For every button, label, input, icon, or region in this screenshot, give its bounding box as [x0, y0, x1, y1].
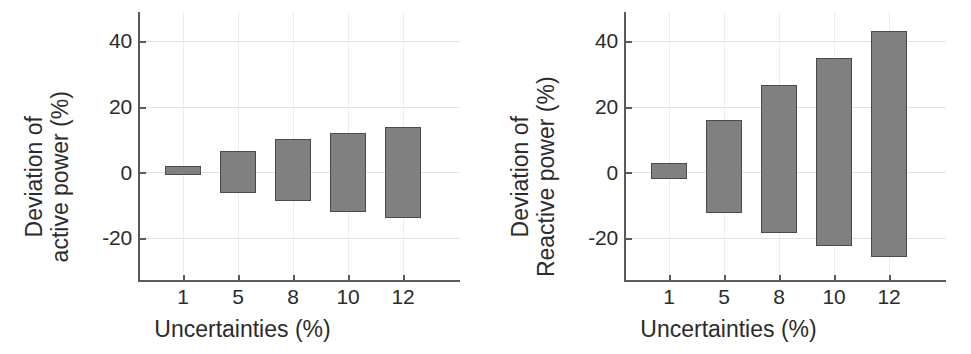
y-tick-label-40: 40 [86, 29, 132, 53]
x-tick-8 [779, 275, 781, 281]
y-tick-label-0: 0 [86, 161, 132, 185]
x-axis-line [624, 280, 946, 282]
y-axis-line [138, 12, 140, 282]
x-tick-10 [348, 275, 350, 281]
gridline-y-20 [140, 107, 460, 108]
y-tick-20 [626, 107, 632, 109]
y-axis-label-line2: Reactive power (%) [534, 67, 560, 287]
y-tick-label-0: 0 [572, 161, 618, 185]
x-tick-1 [183, 275, 185, 281]
y-axis-label-line1: Deviation of [22, 67, 48, 287]
bar-active-12 [385, 127, 421, 218]
x-tick-label-8: 8 [759, 285, 799, 309]
y-tick-label-40: 40 [572, 29, 618, 53]
y-tick-m20 [140, 238, 146, 240]
gridline-x-5 [238, 12, 239, 282]
y-tick-20 [140, 107, 146, 109]
bar-active-5 [220, 151, 256, 193]
x-axis-line [138, 280, 460, 282]
x-tick-12 [889, 275, 891, 281]
y-tick-40 [140, 41, 146, 43]
x-tick-label-12: 12 [869, 285, 909, 309]
y-tick-label-20: 20 [572, 95, 618, 119]
gridline-x-1 [183, 12, 184, 282]
gridline-y-40 [140, 41, 460, 42]
x-tick-12 [403, 275, 405, 281]
y-tick-label-20: 20 [86, 95, 132, 119]
x-tick-label-5: 5 [218, 285, 258, 309]
chart-panel-active-power: Deviation of active power (%) 40 20 0 -2… [0, 0, 485, 354]
x-tick-label-10: 10 [814, 285, 854, 309]
x-tick-label-12: 12 [383, 285, 423, 309]
y-axis-label-line2: active power (%) [48, 67, 74, 287]
bar-active-10 [330, 133, 366, 212]
x-tick-label-1: 1 [163, 285, 203, 309]
bar-reactive-10 [816, 58, 852, 246]
y-tick-40 [626, 41, 632, 43]
y-tick-0 [140, 172, 146, 174]
bar-reactive-12 [871, 31, 907, 257]
y-axis-label-reactive-power: Deviation of Reactive power (%) [508, 67, 560, 287]
x-tick-label-8: 8 [273, 285, 313, 309]
bar-reactive-1 [651, 163, 687, 179]
y-tick-m20 [626, 238, 632, 240]
x-tick-8 [293, 275, 295, 281]
bar-reactive-8 [761, 85, 797, 233]
x-axis-label-reactive-power: Uncertainties (%) [486, 316, 971, 343]
x-axis-label-active-power: Uncertainties (%) [0, 316, 485, 343]
y-axis-line [624, 12, 626, 282]
bar-active-1 [165, 166, 201, 175]
plot-area-active-power [140, 12, 460, 282]
y-tick-label-minus-20: -20 [78, 226, 132, 250]
figure-two-bar-charts: Deviation of active power (%) 40 20 0 -2… [0, 0, 971, 354]
y-tick-label-minus-20: -20 [564, 226, 618, 250]
bar-active-8 [275, 139, 311, 201]
x-tick-5 [238, 275, 240, 281]
plot-area-reactive-power [626, 12, 946, 282]
bar-reactive-5 [706, 120, 742, 213]
gridline-y-m20 [140, 238, 460, 239]
x-tick-10 [834, 275, 836, 281]
x-tick-1 [669, 275, 671, 281]
gridline-x-1 [669, 12, 670, 282]
x-tick-label-10: 10 [328, 285, 368, 309]
x-tick-label-5: 5 [704, 285, 744, 309]
x-tick-label-1: 1 [649, 285, 689, 309]
y-axis-label-active-power: Deviation of active power (%) [22, 67, 74, 287]
chart-panel-reactive-power: Deviation of Reactive power (%) 40 20 0 … [486, 0, 971, 354]
y-tick-0 [626, 172, 632, 174]
y-axis-label-line1: Deviation of [508, 67, 534, 287]
x-tick-5 [724, 275, 726, 281]
